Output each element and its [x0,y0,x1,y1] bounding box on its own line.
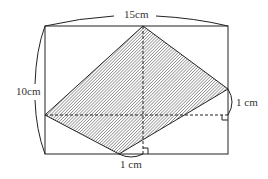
width-label: 15cm [124,8,148,20]
right-offset-label: 1 cm [236,96,258,108]
right-angle-mark-bottom [143,148,148,154]
shaded-quadrilateral [45,26,228,154]
height-label: 10cm [16,85,40,97]
right-angle-mark-right [222,115,228,120]
figure: 15cm 10cm 1 cm 1 cm [0,0,268,179]
bottom-offset-label: 1 cm [120,158,142,170]
right-offset-arc [228,89,232,115]
